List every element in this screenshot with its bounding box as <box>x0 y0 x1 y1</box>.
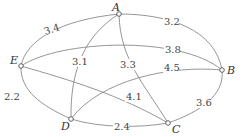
node-E <box>19 64 24 69</box>
node-label-D: D <box>60 120 70 133</box>
node-label-A: A <box>111 1 120 14</box>
svg-text:3.6: 3.6 <box>196 97 212 108</box>
svg-text:4.1: 4.1 <box>126 91 142 102</box>
edge-label-A-D: 3.1 <box>71 56 88 67</box>
svg-text:3.8: 3.8 <box>165 44 181 55</box>
svg-text:2.2: 2.2 <box>4 91 20 102</box>
svg-text:3.2: 3.2 <box>164 16 180 27</box>
node-label-C: C <box>172 123 181 136</box>
svg-text:2.4: 2.4 <box>114 121 130 132</box>
edge-label-A-B: 3.2 <box>163 16 180 27</box>
edge-E-C <box>21 66 168 123</box>
edge-label-E-C: 4.1 <box>125 91 142 102</box>
edge-label-D-C: 2.4 <box>113 121 130 132</box>
edge-label-E-D: 2.2 <box>3 91 20 102</box>
edge-label-D-B: 4.5 <box>163 62 180 73</box>
svg-text:4.5: 4.5 <box>164 62 180 73</box>
node-label-E: E <box>9 54 18 67</box>
edge-label-C-B: 3.6 <box>195 97 212 108</box>
node-C <box>166 121 171 126</box>
edge-label-A-C: 3.3 <box>119 59 136 70</box>
svg-text:3.1: 3.1 <box>72 56 88 67</box>
weighted-graph-diagram: 3.4 3.2 3.8 3.1 3.3 4.5 4.1 2.2 2.4 3.6 <box>0 0 242 137</box>
node-label-B: B <box>226 64 235 77</box>
edge-E-D <box>21 66 71 119</box>
edge-label-E-B: 3.8 <box>164 44 181 55</box>
edge-label-E-A: 3.4 <box>42 22 61 37</box>
node-B <box>220 68 225 73</box>
svg-text:3.3: 3.3 <box>120 59 136 70</box>
